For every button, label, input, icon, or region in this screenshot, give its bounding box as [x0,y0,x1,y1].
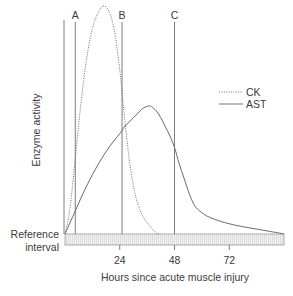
x-axis-label: Hours since acute muscle injury [101,271,250,283]
marker-label-c: C [171,9,179,21]
x-tick-label-72: 72 [223,254,235,266]
x-tick-label-24: 24 [114,254,126,266]
reference-label-line2: interval [25,241,59,253]
marker-label-b: B [119,9,126,21]
reference-label-line1: Reference [11,228,60,240]
enzyme-activity-chart: Enzyme activity Reference interval ABC 2… [0,0,293,296]
legend: CK AST [219,86,267,110]
marker-label-a: A [72,9,79,21]
legend-ck-label: CK [246,86,261,98]
series-ck-line [65,6,159,234]
y-axis-label: Enzyme activity [30,93,42,167]
legend-ast-label: AST [246,98,267,110]
x-tick-label-48: 48 [169,254,181,266]
reference-interval-band [65,234,284,245]
